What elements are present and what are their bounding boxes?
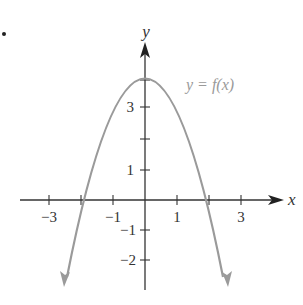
y-tick-label: −1 [120, 222, 136, 238]
x-tick-label: −3 [41, 209, 57, 225]
y-tick-label: −2 [120, 252, 136, 268]
y-axis: y 3 1 −1 −2 [120, 22, 150, 290]
x-axis: x −3 −1 1 3 [20, 190, 296, 225]
function-curve: y = f(x) [60, 76, 234, 287]
item-bullet [2, 32, 6, 36]
curve-left-arrow-icon [60, 271, 70, 287]
x-axis-label: x [287, 190, 296, 209]
x-tick-label: 1 [173, 209, 181, 225]
y-axis-label: y [140, 22, 150, 41]
x-tick-label: −1 [105, 209, 121, 225]
function-label: y = f(x) [184, 76, 234, 94]
y-tick-label: 1 [127, 162, 135, 178]
y-tick-label: 3 [127, 99, 135, 115]
curve-right-arrow-icon [222, 271, 232, 287]
x-tick-label: 3 [237, 209, 245, 225]
parabola-graph: x −3 −1 1 3 y 3 1 −1 −2 y = f(x) [0, 0, 303, 305]
